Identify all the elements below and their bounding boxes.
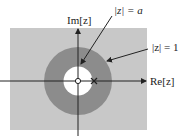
imag-axis-label: Im[z] (67, 15, 91, 26)
real-axis-label: Re[z] (150, 76, 174, 87)
inner-circle-label: |z| = a (114, 5, 143, 16)
unit-circle-label: |z| = 1 (152, 42, 179, 53)
z-plane-diagram (0, 0, 190, 138)
zero-marker-icon (75, 78, 80, 83)
